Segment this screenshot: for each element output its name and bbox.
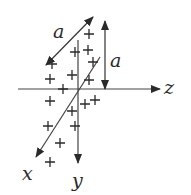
x-axis-label: x (22, 164, 33, 183)
diagonal-dimension-label: a (53, 22, 64, 41)
vertical-dimension-label: a (110, 51, 121, 70)
y-axis-label: y (72, 171, 83, 190)
diagram-canvas: a a z x y (0, 0, 191, 195)
plus-markers (43, 29, 100, 167)
x-axis (36, 57, 100, 157)
z-axis-label: z (164, 78, 174, 97)
